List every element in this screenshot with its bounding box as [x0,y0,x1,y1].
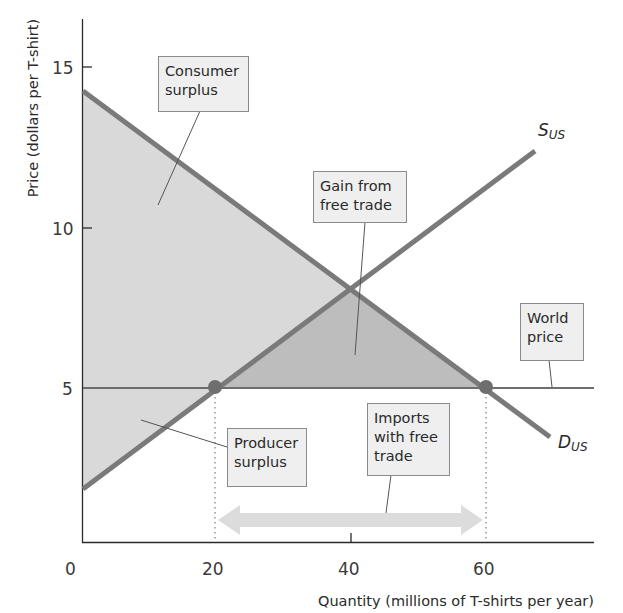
supply-curve-label: SUS [538,120,565,142]
y-tick-label-10: 10 [52,219,74,239]
domestic-production-point [208,380,222,394]
y-tick-label-5: 5 [62,379,73,399]
imports-double-arrow [218,505,483,535]
demand-curve-label: DUS [558,432,588,454]
x-axis-title: Quantity (millions of T-shirts per year) [318,593,594,609]
producer-surplus-line-1: Producer [234,434,300,453]
consumer-surplus-line-2: surplus [165,81,242,100]
imports-label: Imports with free trade [367,403,450,476]
x-tick-label-40: 40 [338,559,360,579]
demand-label-sub: US [571,440,587,454]
demand-label-main: D [558,432,571,452]
consumer-surplus-label: Consumer surplus [158,56,249,112]
y-tick-label-15: 15 [52,58,74,78]
world-price-line-2: price [527,328,577,347]
world-price-label: World price [520,303,584,361]
x-tick-label-0: 0 [65,559,76,579]
x-tick-label-60: 60 [473,559,495,579]
gain-from-trade-label: Gain from free trade [313,171,407,223]
y-axis-title: Price (dollars per T-shirt) [25,19,41,197]
imports-line-1: Imports [374,409,443,428]
gain-line-1: Gain from [320,177,400,196]
gain-line-2: free trade [320,196,400,215]
x-tick-label-20: 20 [202,559,224,579]
consumer-surplus-line-1: Consumer [165,62,242,81]
imports-leader [386,475,391,513]
domestic-consumption-point [479,380,493,394]
supply-label-sub: US [549,128,565,142]
imports-line-2: with free [374,428,443,447]
world-price-line-1: World [527,309,577,328]
world-price-leader [549,360,552,387]
producer-surplus-label: Producer surplus [227,428,307,487]
supply-label-main: S [538,120,549,140]
producer-surplus-line-2: surplus [234,453,300,472]
imports-line-3: trade [374,447,443,466]
